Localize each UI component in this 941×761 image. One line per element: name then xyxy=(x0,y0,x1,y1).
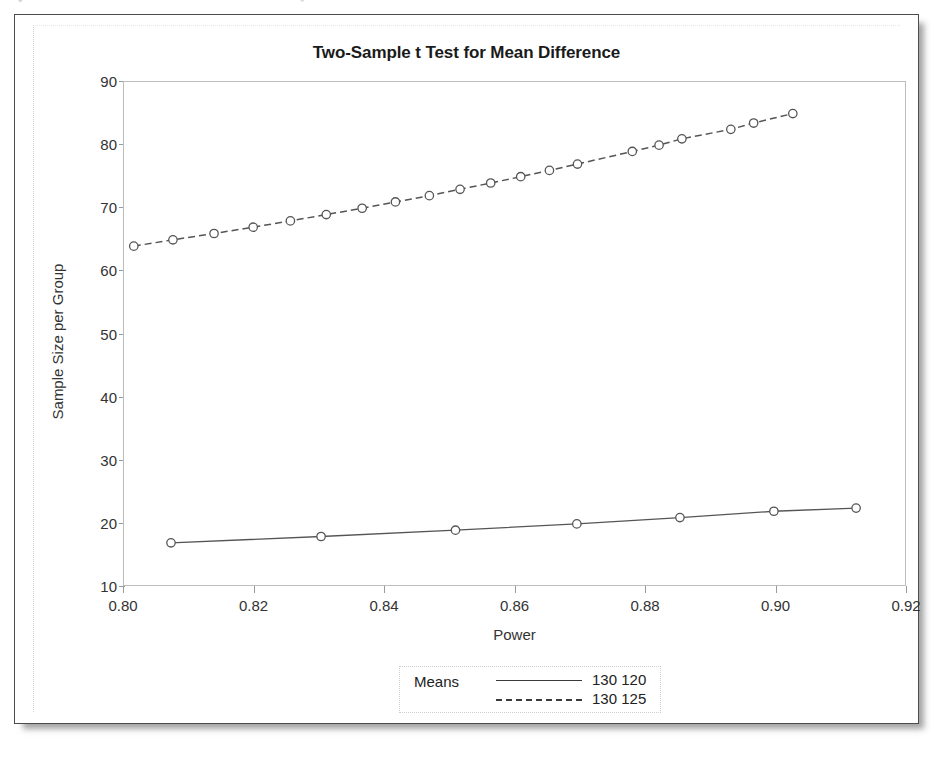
data-point-marker xyxy=(852,504,860,512)
y-tick-label: 80 xyxy=(83,136,117,153)
y-tick-label: 70 xyxy=(83,199,117,216)
plot-area xyxy=(123,81,906,586)
y-tick-label: 20 xyxy=(83,514,117,531)
data-point-marker xyxy=(317,532,325,540)
chart-title: Two-Sample t Test for Mean Difference xyxy=(15,43,918,63)
x-tick-mark xyxy=(515,586,516,593)
y-tick-label: 60 xyxy=(83,262,117,279)
legend-label-1: 130 125 xyxy=(592,690,646,707)
plot-series-svg xyxy=(124,82,907,587)
x-tick-mark xyxy=(776,586,777,593)
data-point-marker xyxy=(517,172,525,180)
data-point-marker xyxy=(249,223,257,231)
y-axis-ticks: 102030405060708090 xyxy=(71,81,117,586)
x-tick-mark xyxy=(254,586,255,593)
data-point-marker xyxy=(130,242,138,250)
x-tick-mark xyxy=(123,586,124,593)
series-130-120 xyxy=(167,504,861,547)
data-point-marker xyxy=(770,507,778,515)
y-tick-label: 40 xyxy=(83,388,117,405)
data-point-marker xyxy=(545,166,553,174)
x-tick-label: 0.82 xyxy=(219,597,289,614)
data-point-marker xyxy=(167,539,175,547)
x-tick-mark xyxy=(384,586,385,593)
data-point-marker xyxy=(655,141,663,149)
y-tick-label: 90 xyxy=(83,73,117,90)
legend-label-0: 130 120 xyxy=(592,671,646,688)
data-point-marker xyxy=(678,135,686,143)
x-axis-ticks: 0.800.820.840.860.880.900.92 xyxy=(123,586,906,626)
data-point-marker xyxy=(358,204,366,212)
data-point-marker xyxy=(210,229,218,237)
y-tick-label: 10 xyxy=(83,578,117,595)
data-point-marker xyxy=(322,210,330,218)
data-point-marker xyxy=(391,198,399,206)
scan-edge-artifact: • ▪ xyxy=(0,0,941,14)
data-point-marker xyxy=(676,513,684,521)
x-tick-label: 0.90 xyxy=(741,597,811,614)
figure-frame: Two-Sample t Test for Mean Difference 10… xyxy=(14,14,919,724)
y-tick-label: 50 xyxy=(83,325,117,342)
series-line xyxy=(171,508,856,543)
x-tick-label: 0.86 xyxy=(480,597,550,614)
data-point-marker xyxy=(628,147,636,155)
legend-item-dashed: 130 125 xyxy=(496,689,656,711)
x-tick-label: 0.84 xyxy=(349,597,419,614)
legend-title: Means xyxy=(414,673,459,690)
data-point-marker xyxy=(425,191,433,199)
x-tick-mark xyxy=(906,586,907,593)
y-tick-label: 30 xyxy=(83,451,117,468)
x-tick-mark xyxy=(645,586,646,593)
scan-artifact-right: ▪ xyxy=(300,0,305,7)
data-point-marker xyxy=(286,217,294,225)
legend: Means 130 120 130 125 xyxy=(399,666,661,713)
data-point-marker xyxy=(789,109,797,117)
legend-swatch-solid-line xyxy=(496,680,582,681)
y-axis-title: Sample Size per Group xyxy=(49,132,66,552)
x-tick-label: 0.92 xyxy=(871,597,941,614)
legend-swatch-dashed-line xyxy=(496,699,582,701)
data-point-marker xyxy=(451,526,459,534)
x-axis-title: Power xyxy=(123,626,906,643)
data-point-marker xyxy=(456,185,464,193)
data-point-marker xyxy=(169,236,177,244)
scan-artifact-left: • xyxy=(18,0,23,7)
x-tick-label: 0.88 xyxy=(610,597,680,614)
data-point-marker xyxy=(573,520,581,528)
data-point-marker xyxy=(727,125,735,133)
data-point-marker xyxy=(573,160,581,168)
x-tick-label: 0.80 xyxy=(88,597,158,614)
data-point-marker xyxy=(487,179,495,187)
series-130-125 xyxy=(130,109,797,250)
data-point-marker xyxy=(749,119,757,127)
series-line xyxy=(134,114,793,247)
